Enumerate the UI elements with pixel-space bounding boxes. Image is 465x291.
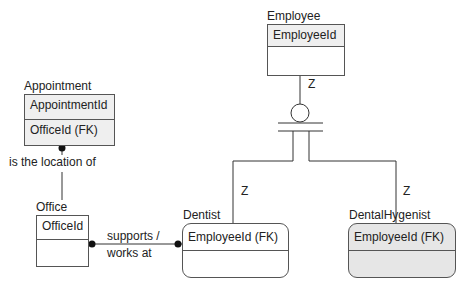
subtype-circle — [291, 104, 309, 122]
employee-key: EmployeeId — [268, 25, 344, 47]
relationship-label-works-at: works at — [107, 246, 152, 260]
employee-cardinality: Z — [308, 77, 315, 91]
office-entity[interactable]: OfficeId — [36, 215, 89, 267]
dentist-cardinality: Z — [241, 184, 248, 198]
dentist-entity[interactable]: EmployeeId (FK) — [182, 223, 289, 278]
office-title: Office — [36, 200, 67, 214]
dentist-key: EmployeeId (FK) — [183, 224, 288, 251]
relationship-label-supports: supports / — [107, 229, 160, 243]
office-key: OfficeId — [37, 216, 88, 240]
hygenist-title: DentalHygenist — [349, 208, 430, 222]
appointment-title: Appointment — [24, 79, 91, 93]
hygenist-key: EmployeeId (FK) — [349, 224, 455, 251]
hygenist-entity[interactable]: EmployeeId (FK) — [348, 223, 456, 278]
dentist-title: Dentist — [183, 208, 220, 222]
appointment-fk: OfficeId (FK) — [25, 120, 114, 145]
employee-entity[interactable]: EmployeeId — [267, 24, 345, 76]
relationship-label-location: is the location of — [9, 155, 96, 169]
hygenist-cardinality: Z — [403, 184, 410, 198]
appointment-key: AppointmentId — [25, 95, 114, 120]
appointment-entity[interactable]: AppointmentId OfficeId (FK) — [24, 94, 115, 146]
employee-title: Employee — [267, 9, 320, 23]
